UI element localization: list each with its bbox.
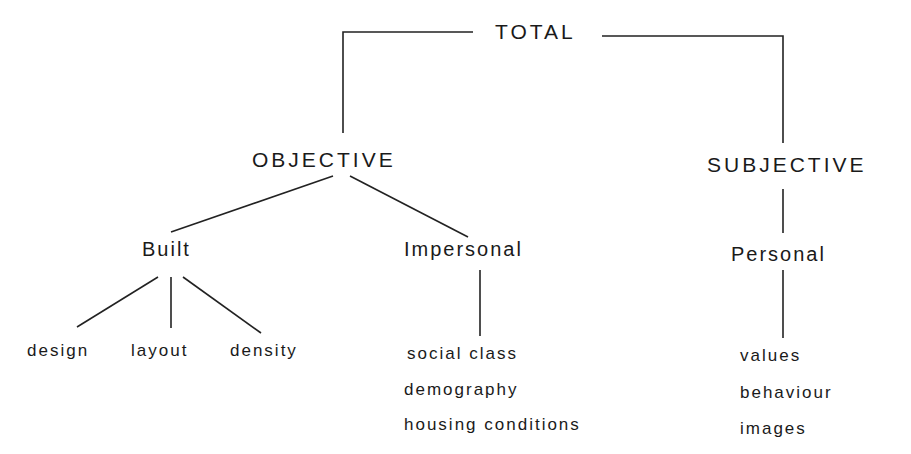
node-total: TOTAL	[495, 20, 576, 44]
node-objective: OBJECTIVE	[252, 148, 396, 172]
node-subjective: SUBJECTIVE	[707, 153, 867, 177]
leaf-density: density	[230, 341, 298, 361]
node-built: Built	[142, 238, 191, 261]
connector-objective-built	[171, 176, 333, 232]
leaf-layout: layout	[131, 341, 188, 361]
node-personal: Personal	[731, 243, 826, 266]
leaf-values: values	[740, 346, 801, 366]
leaf-behaviour: behaviour	[740, 383, 833, 403]
connector-built-density	[183, 277, 261, 333]
leaf-demography: demography	[404, 380, 519, 400]
leaf-design: design	[27, 341, 89, 361]
leaf-images: images	[740, 419, 807, 439]
node-impersonal: Impersonal	[404, 238, 523, 261]
connector-objective-impersonal	[350, 176, 468, 237]
connector-total-subjective	[602, 36, 783, 143]
connector-built-design	[77, 277, 158, 327]
leaf-social-class: social class	[407, 344, 518, 364]
connector-total-objective	[343, 32, 473, 133]
leaf-housing-conditions: housing conditions	[404, 415, 581, 435]
